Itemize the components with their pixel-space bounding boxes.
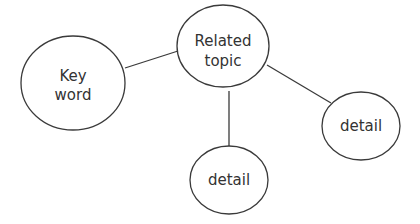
mind-map-diagram: Key word Related topic detail detail [0,0,420,224]
node-detail-right: detail [322,92,400,160]
node-label: topic [205,52,242,70]
node-label: detail [340,117,382,135]
node-label: Related [195,32,252,50]
node-label: Key [59,67,86,85]
edge-keyword-related [125,51,178,68]
node-related-topic: Related topic [177,5,269,87]
node-key-word: Key word [21,36,125,130]
edge-related-detail-right [267,65,331,103]
node-label: word [55,86,92,104]
node-detail-bottom: detail [190,146,268,214]
node-label: detail [208,171,250,189]
